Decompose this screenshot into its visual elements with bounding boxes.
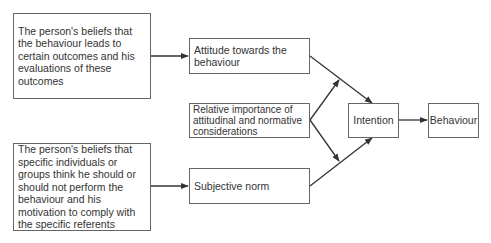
relative-importance-box: Relative importance of attitudinal and n… bbox=[189, 103, 310, 138]
intention-text: Intention bbox=[353, 114, 393, 127]
subjective-norm-box: Subjective norm bbox=[189, 168, 310, 204]
attitude-text: Attitude towards the behaviour bbox=[194, 44, 305, 69]
intention-box: Intention bbox=[348, 103, 399, 138]
attitude-box: Attitude towards the behaviour bbox=[189, 38, 310, 74]
beliefs-referents-box: The person's beliefs that specific indiv… bbox=[13, 143, 151, 231]
relative-importance-text: Relative importance of attitudinal and n… bbox=[193, 104, 306, 137]
beliefs-referents-text: The person's beliefs that specific indiv… bbox=[18, 143, 146, 231]
behaviour-box: Behaviour bbox=[428, 103, 479, 138]
behaviour-text: Behaviour bbox=[430, 114, 477, 127]
arrow-subjective-norm-to-intention bbox=[310, 138, 372, 186]
arrow-importance-to-attitude-edge bbox=[310, 80, 339, 120]
arrow-attitude-to-intention bbox=[310, 56, 372, 103]
beliefs-outcomes-box: The person's beliefs that the behaviour … bbox=[13, 13, 151, 99]
beliefs-outcomes-text: The person's beliefs that the behaviour … bbox=[18, 25, 146, 88]
subjective-norm-text: Subjective norm bbox=[194, 180, 269, 193]
arrow-importance-to-norm-edge bbox=[310, 120, 339, 161]
